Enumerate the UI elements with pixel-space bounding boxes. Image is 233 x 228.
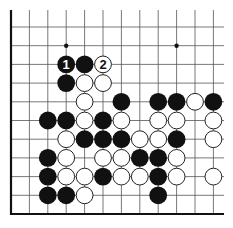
- white-stone-icon: [95, 75, 112, 92]
- white-stone: [113, 112, 130, 129]
- white-stone: [76, 112, 93, 129]
- white-stone-icon: [76, 75, 93, 92]
- black-stone-icon: [57, 74, 75, 92]
- white-stone-icon: [76, 93, 93, 110]
- white-stone: [95, 75, 112, 92]
- white-stone-icon: [205, 131, 222, 148]
- black-stone: [113, 93, 131, 111]
- white-stone: [150, 131, 167, 148]
- star-point-icon: [64, 44, 68, 48]
- white-stone-icon: [95, 150, 112, 167]
- black-stone-icon: [149, 168, 167, 186]
- white-stone: [58, 168, 75, 185]
- black-stone-icon: [39, 186, 57, 204]
- black-stone-icon: [131, 149, 149, 167]
- black-stone: [94, 112, 112, 130]
- black-stone: [149, 186, 167, 204]
- white-stone-icon: [76, 187, 93, 204]
- black-stone: [94, 130, 112, 148]
- black-stone-icon: [113, 130, 131, 148]
- white-stone-icon: [168, 168, 185, 185]
- black-stone: [113, 130, 131, 148]
- black-stone-icon: [113, 93, 131, 111]
- white-stone: [168, 168, 185, 185]
- black-stone: [39, 168, 57, 186]
- white-stone-icon: [113, 150, 130, 167]
- black-stone-icon: [57, 112, 75, 130]
- move-number-label: 2: [99, 57, 106, 72]
- white-stone: [58, 131, 75, 148]
- white-stone: [76, 187, 93, 204]
- white-stone-icon: [168, 112, 185, 129]
- black-stone: [76, 130, 94, 148]
- black-stone: [131, 149, 149, 167]
- white-stone: [205, 112, 222, 129]
- white-stone: [76, 75, 93, 92]
- white-stone: [131, 131, 148, 148]
- white-stone: [150, 112, 167, 129]
- white-stone-icon: [205, 112, 222, 129]
- black-stone: [39, 112, 57, 130]
- white-stone-icon: [113, 168, 130, 185]
- white-stone: [168, 150, 185, 167]
- white-stone-icon: [58, 150, 75, 167]
- black-stone: [39, 186, 57, 204]
- black-stone-icon: [168, 130, 186, 148]
- black-stone-icon: [205, 93, 223, 111]
- white-stone: [168, 112, 185, 129]
- white-stone: [205, 131, 222, 148]
- white-stone-icon: [131, 168, 148, 185]
- black-stone: [149, 168, 167, 186]
- black-stone-icon: [94, 168, 112, 186]
- black-stone-icon: [94, 112, 112, 130]
- white-stone-icon: [205, 168, 222, 185]
- black-stone: [57, 186, 75, 204]
- white-stone-icon: [131, 131, 148, 148]
- black-stone-icon: [149, 186, 167, 204]
- white-stone-icon: [150, 112, 167, 129]
- white-stone: [187, 93, 204, 110]
- black-stone: 1: [57, 56, 75, 74]
- black-stone: [149, 93, 167, 111]
- black-stone-icon: [57, 186, 75, 204]
- white-stone-icon: [76, 168, 93, 185]
- black-stone: [39, 149, 57, 167]
- white-stone: [95, 150, 112, 167]
- white-stone: [113, 168, 130, 185]
- black-stone-icon: [39, 112, 57, 130]
- white-stone: [113, 150, 130, 167]
- black-stone: [149, 149, 167, 167]
- move-number-label: 1: [63, 57, 70, 72]
- go-board: 12: [0, 0, 233, 228]
- white-stone-icon: [187, 93, 204, 110]
- white-stone-icon: [58, 131, 75, 148]
- black-stone-icon: [39, 168, 57, 186]
- white-stone-icon: [58, 168, 75, 185]
- black-stone-icon: [94, 130, 112, 148]
- black-stone-icon: [76, 56, 94, 74]
- black-stone: [94, 168, 112, 186]
- black-stone-icon: [149, 93, 167, 111]
- black-stone-icon: [39, 149, 57, 167]
- white-stone-icon: [113, 112, 130, 129]
- black-stone-icon: [149, 149, 167, 167]
- white-stone: [205, 168, 222, 185]
- black-stone-icon: [76, 130, 94, 148]
- white-stone: [58, 150, 75, 167]
- white-stone: 2: [95, 56, 112, 73]
- black-stone: [57, 74, 75, 92]
- white-stone: [131, 168, 148, 185]
- white-stone-icon: [150, 131, 167, 148]
- black-stone: [76, 56, 94, 74]
- star-point-icon: [174, 44, 178, 48]
- black-stone: [57, 112, 75, 130]
- white-stone-icon: [76, 112, 93, 129]
- white-stone-icon: [168, 150, 185, 167]
- black-stone: [168, 130, 186, 148]
- black-stone: [205, 93, 223, 111]
- black-stone: [168, 93, 186, 111]
- white-stone: [76, 93, 93, 110]
- white-stone: [76, 168, 93, 185]
- black-stone-icon: [168, 93, 186, 111]
